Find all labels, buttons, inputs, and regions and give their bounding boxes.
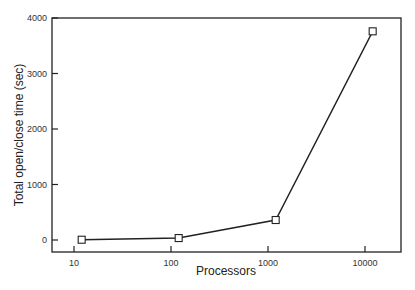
y-axis: 01000200030004000: [27, 13, 58, 245]
square-marker-icon: [78, 236, 85, 243]
square-marker-icon: [369, 28, 376, 35]
plot-border: [52, 18, 401, 252]
x-tick-label: 10000: [352, 258, 377, 268]
x-axis-title: Processors: [196, 264, 256, 278]
line-chart: 01000200030004000 10100100010000 Process…: [0, 0, 415, 290]
y-axis-title: Total open/close time (sec): [12, 64, 26, 207]
x-tick-label: 1000: [258, 258, 278, 268]
data-series: [78, 28, 376, 243]
series-line: [82, 31, 373, 239]
square-marker-icon: [175, 235, 182, 242]
y-tick-label: 4000: [27, 13, 47, 23]
y-tick-label: 0: [42, 235, 47, 245]
x-tick-label: 10: [69, 258, 79, 268]
plot-frame: [52, 18, 401, 252]
x-tick-label: 100: [163, 258, 178, 268]
y-tick-label: 2000: [27, 124, 47, 134]
y-tick-label: 1000: [27, 180, 47, 190]
square-marker-icon: [272, 217, 279, 224]
y-tick-label: 3000: [27, 69, 47, 79]
